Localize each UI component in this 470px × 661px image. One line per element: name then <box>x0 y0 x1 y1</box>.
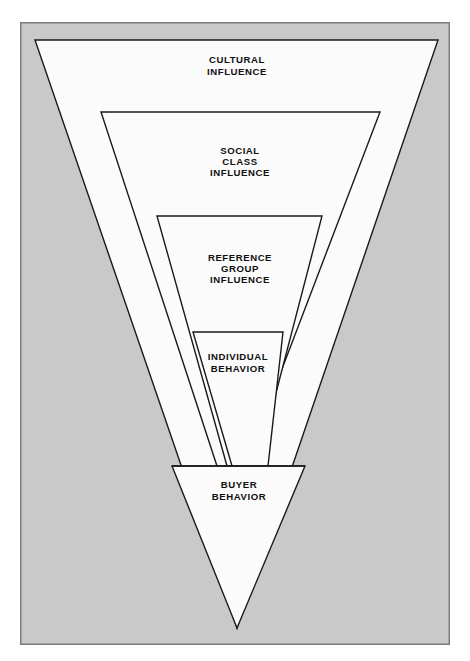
diagram-canvas: CULTURALINFLUENCE SOCIALCLASSINFLUENCE R… <box>0 0 470 661</box>
level-label-cultural-influence: CULTURALINFLUENCE <box>207 54 267 76</box>
level-label-individual-behavior: INDIVIDUALBEHAVIOR <box>208 351 268 373</box>
influence-funnel-diagram: CULTURALINFLUENCE SOCIALCLASSINFLUENCE R… <box>0 0 470 661</box>
